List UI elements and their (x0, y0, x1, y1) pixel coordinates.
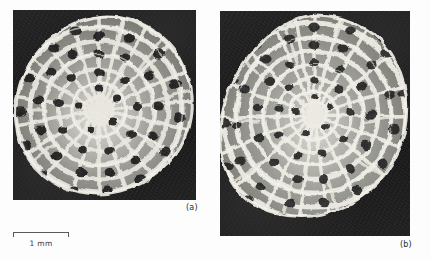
micrograph-panel-b (220, 11, 410, 236)
scale-bar-label: 1 mm (13, 239, 69, 248)
scale-bar-line (13, 232, 69, 233)
panel-caption-a: (a) (186, 203, 198, 212)
micrograph-panel-a (13, 10, 196, 200)
panel-b-specimen (220, 11, 410, 236)
figure-root: (a) (0, 0, 430, 259)
scale-bar-tick-left (13, 232, 14, 237)
scale-bar-tick-right (68, 232, 69, 237)
scale-bar: 1 mm (13, 232, 69, 254)
panel-a-specimen (13, 10, 196, 200)
panel-caption-b: (b) (400, 240, 412, 249)
